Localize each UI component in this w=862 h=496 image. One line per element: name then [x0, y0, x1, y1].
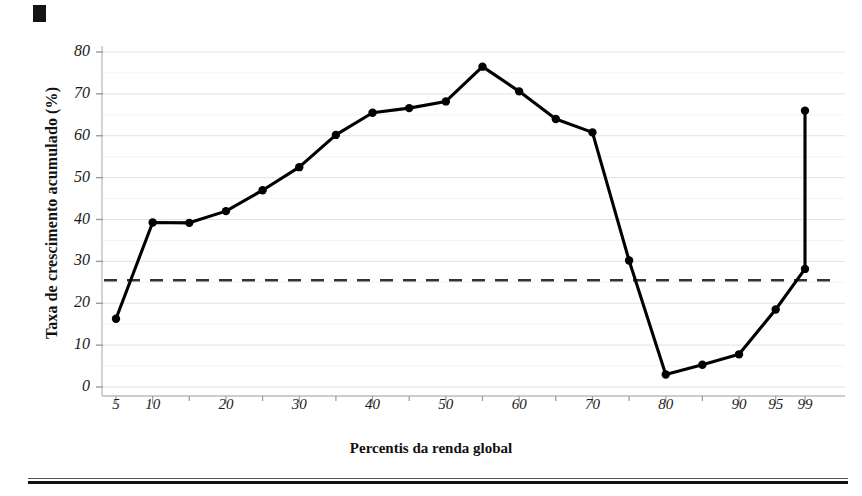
x-tick-label-40: 40: [353, 396, 393, 413]
x-tick-label-20: 20: [206, 396, 246, 413]
bottom-rule: [28, 481, 848, 484]
data-line: [116, 67, 805, 375]
y-tick-label-60: 60: [46, 127, 90, 143]
y-tick-label-20: 20: [46, 294, 90, 310]
y-tick-label-80: 80: [46, 43, 90, 59]
x-axis-title: Percentis da renda global: [0, 440, 862, 457]
gridlines: [102, 52, 845, 387]
x-tick-label-90: 90: [719, 396, 759, 413]
data-point-markers: [112, 62, 809, 378]
axis-lines: [102, 46, 845, 396]
bottom-rule-thin: [28, 478, 848, 479]
y-tick-label-0: 0: [46, 378, 90, 394]
x-tick-label-70: 70: [572, 396, 612, 413]
chart-svg: [0, 0, 862, 496]
y-tick-label-10: 10: [46, 336, 90, 352]
x-tick-label-50: 50: [426, 396, 466, 413]
figure-container: Taxa de crescimento acumulado (%) Percen…: [0, 0, 862, 496]
axis-ticks: [96, 52, 805, 404]
y-tick-label-70: 70: [46, 85, 90, 101]
y-tick-label-50: 50: [46, 169, 90, 185]
x-tick-label-10: 10: [133, 396, 173, 413]
chart-plot-area: Taxa de crescimento acumulado (%) Percen…: [0, 0, 862, 496]
x-tick-label-99: 99: [785, 396, 825, 413]
y-tick-label-40: 40: [46, 211, 90, 227]
y-tick-label-30: 30: [46, 252, 90, 268]
x-tick-label-30: 30: [279, 396, 319, 413]
x-tick-label-60: 60: [499, 396, 539, 413]
x-tick-label-80: 80: [646, 396, 686, 413]
x-tick-label-5: 5: [96, 396, 136, 413]
